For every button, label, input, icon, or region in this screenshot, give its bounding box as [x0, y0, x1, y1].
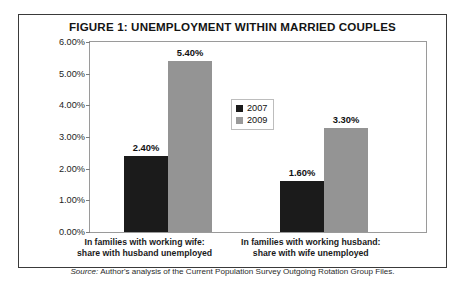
category-label-1-line-0: In families with working husband: — [241, 237, 381, 248]
legend-swatch-2009-icon — [236, 117, 243, 124]
y-tick-mark-1 — [86, 200, 90, 201]
source-prefix: Source: — [70, 267, 98, 276]
bar-2007-group-1[interactable]: 1.60% — [280, 181, 324, 232]
source-text: Author's analysis of the Current Populat… — [98, 267, 394, 276]
plot-area: 0.00%1.00%2.00%3.00%4.00%5.00%6.00% 2.40… — [89, 41, 427, 233]
bar-value-2009-group-0: 5.40% — [177, 47, 204, 58]
legend-item-2007: 2007 — [236, 102, 267, 114]
legend-swatch-2007-icon — [236, 105, 243, 112]
y-tick-mark-2 — [86, 169, 90, 170]
y-tick-mark-0 — [86, 232, 90, 233]
legend-label-2009: 2009 — [247, 115, 267, 125]
y-tick-label-6: 6.00% — [59, 37, 85, 47]
y-tick-label-1: 1.00% — [59, 195, 85, 205]
y-tick-mark-5 — [86, 74, 90, 75]
y-tick-mark-6 — [86, 42, 90, 43]
y-tick-label-3: 3.00% — [59, 132, 85, 142]
y-tick-label-5: 5.00% — [59, 69, 85, 79]
source-note: Source: Author's analysis of the Current… — [19, 267, 446, 276]
legend-label-2007: 2007 — [247, 103, 267, 113]
category-label-1: In families with working husband: share … — [241, 237, 381, 260]
y-tick-label-0: 0.00% — [59, 227, 85, 237]
category-label-0: In families with working wife: share wit… — [77, 237, 212, 260]
bar-2009-group-0[interactable]: 5.40% — [168, 61, 212, 232]
category-label-0-line-1: share with husband unemployed — [77, 248, 212, 259]
figure-title: FIGURE 1: UNEMPLOYMENT WITHIN MARRIED CO… — [19, 20, 446, 33]
bar-group-0: 2.40%5.40% — [124, 42, 212, 232]
category-label-1-line-1: share with wife unemployed — [241, 248, 381, 259]
bar-value-2007-group-1: 1.60% — [289, 167, 316, 178]
bar-2009-group-1[interactable]: 3.30% — [324, 128, 368, 233]
y-tick-mark-4 — [86, 105, 90, 106]
bar-2007-group-0[interactable]: 2.40% — [124, 156, 168, 232]
figure-panel: FIGURE 1: UNEMPLOYMENT WITHIN MARRIED CO… — [18, 14, 447, 268]
category-label-0-line-0: In families with working wife: — [77, 237, 212, 248]
bar-value-2009-group-1: 3.30% — [333, 114, 360, 125]
legend-item-2009: 2009 — [236, 114, 267, 126]
bar-group-1: 1.60%3.30% — [280, 42, 368, 232]
chart-legend: 2007 2009 — [231, 99, 274, 130]
y-tick-mark-3 — [86, 137, 90, 138]
y-tick-label-2: 2.00% — [59, 164, 85, 174]
y-tick-label-4: 4.00% — [59, 100, 85, 110]
bar-value-2007-group-0: 2.40% — [133, 142, 160, 153]
